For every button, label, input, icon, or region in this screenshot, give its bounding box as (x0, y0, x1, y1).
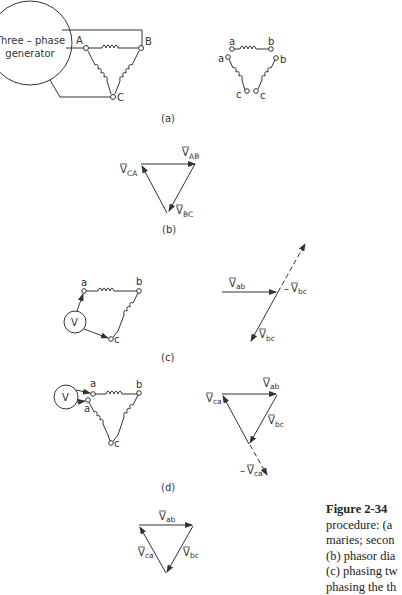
node-d-a2: a (84, 403, 90, 414)
sec-node-b2: b (280, 54, 286, 65)
svg-text:–: – (284, 283, 289, 294)
phasor-label-VBC: V BC (176, 205, 193, 219)
node-d-c: c (114, 438, 120, 449)
node-A: A (76, 35, 83, 46)
node-C: C (117, 92, 124, 103)
svg-text:V: V (259, 329, 266, 340)
panel-a-label: (a) (161, 113, 175, 124)
caption-line: phasing the th (326, 580, 402, 595)
svg-text:–: – (240, 465, 245, 476)
phasor-label-VCA: V CA (120, 164, 138, 178)
panel-d-phasors (222, 394, 277, 475)
caption-line: procedure: (a (326, 518, 402, 534)
node-c-a: a (81, 277, 87, 288)
phasor-label-Vab-d: V ab (263, 378, 280, 391)
figure-caption: Figure 2-34 procedure: (a maries; secon … (326, 502, 402, 595)
svg-text:V: V (159, 511, 166, 522)
phasor-label-Vbc-d: V bc (268, 415, 284, 429)
node-B: B (145, 36, 152, 47)
svg-text:V: V (268, 415, 275, 426)
svg-text:ab: ab (270, 382, 280, 391)
svg-text:CA: CA (127, 169, 138, 178)
svg-text:V: V (229, 278, 236, 289)
svg-text:V: V (120, 164, 127, 175)
generator-label-line1: Three – phase (0, 35, 65, 46)
phasor-label-VAB: V AB (182, 147, 199, 161)
phasor-label-neg-Vca-d: – V ca (240, 465, 263, 478)
phasor-label-Vab-e: V ab (159, 511, 176, 524)
phasor-label-Vca-e: V ca (138, 547, 154, 560)
svg-text:ca: ca (213, 397, 222, 406)
coil-ab (89, 45, 138, 48)
node-c-b: b (136, 276, 142, 287)
svg-text:bc: bc (275, 420, 284, 429)
phasor-label-Vca-d: V ca (206, 393, 222, 406)
coil-ac (88, 51, 111, 94)
caption-line: maries; secon (326, 533, 402, 549)
panel-d-label: (d) (161, 482, 175, 493)
caption-line: (b) phasor dia (326, 549, 402, 565)
phasor-label-neg-Vbc-c: – V bc (284, 283, 307, 296)
sec-node-c1: c (236, 89, 242, 100)
voltmeter-d-label: V (62, 392, 69, 403)
node-d-a1: a (90, 378, 96, 389)
sec-node-c2: c (260, 90, 266, 101)
panel-b-phasor-triangle (141, 164, 195, 213)
svg-text:V: V (263, 378, 270, 389)
svg-text:ab: ab (236, 282, 246, 291)
svg-text:AB: AB (189, 152, 199, 161)
generator-label-line2: generator (5, 48, 55, 59)
panel-a-secondary (226, 46, 279, 93)
svg-text:bc: bc (266, 334, 275, 343)
svg-text:bc: bc (190, 551, 199, 560)
svg-text:ca: ca (254, 469, 263, 478)
coil-bc (115, 51, 139, 94)
phasor-label-Vab-c: V ab (229, 278, 246, 291)
svg-text:V: V (183, 547, 190, 558)
voltmeter-c-label: V (71, 317, 78, 328)
sec-node-a2: a (218, 53, 224, 64)
panel-b-label: (b) (162, 224, 176, 235)
svg-text:V: V (182, 147, 189, 158)
svg-text:V: V (291, 283, 298, 294)
sec-node-a1: a (229, 36, 235, 47)
phasor-label-Vbc-c: V bc (259, 329, 275, 343)
node-d-b: b (136, 379, 142, 390)
node-c-c: c (114, 334, 120, 345)
panel-c-circuit (64, 288, 141, 341)
svg-text:V: V (176, 205, 183, 216)
svg-text:V: V (138, 547, 145, 558)
phasor-label-Vbc-e: V bc (183, 547, 199, 560)
caption-line: (c) phasing tw (326, 564, 402, 580)
svg-text:V: V (206, 393, 213, 404)
svg-text:ab: ab (166, 515, 176, 524)
svg-text:BC: BC (183, 210, 193, 219)
svg-text:bc: bc (298, 287, 307, 296)
svg-text:V: V (247, 465, 254, 476)
panel-c-label: (c) (161, 352, 174, 363)
svg-text:ca: ca (145, 551, 154, 560)
figure-number: Figure 2-34 (326, 502, 402, 518)
sec-node-b1: b (268, 36, 274, 47)
